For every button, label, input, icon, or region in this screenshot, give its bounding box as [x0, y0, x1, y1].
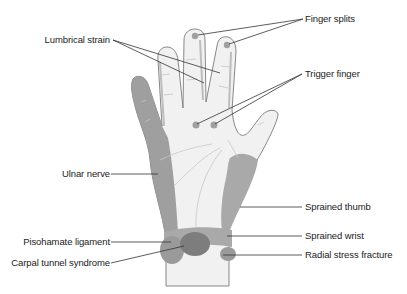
- hand-illustration: [132, 29, 278, 286]
- leader-finger-splits-2: [229, 19, 303, 44]
- label-lumbrical-strain: Lumbrical strain: [2, 34, 110, 45]
- trigger-finger-dot-2: [211, 122, 218, 129]
- label-radial-stress-fracture: Radial stress fracture: [305, 249, 393, 260]
- trigger-finger-dot-1: [193, 122, 200, 129]
- leader-finger-splits-1: [198, 19, 303, 35]
- finger-split-dot-middle: [192, 33, 198, 39]
- finger-split-dot-ring: [224, 42, 230, 48]
- label-sprained-thumb: Sprained thumb: [305, 201, 371, 212]
- label-trigger-finger: Trigger finger: [305, 68, 360, 79]
- pisohamate-ligament-region: [160, 236, 184, 264]
- radial-stress-fracture-region: [220, 247, 236, 261]
- label-ulnar-nerve: Ulnar nerve: [2, 168, 110, 179]
- label-carpal-tunnel-syndrome: Carpal tunnel syndrome: [2, 257, 110, 268]
- label-finger-splits: Finger splits: [305, 13, 355, 24]
- label-pisohamate-ligament: Pisohamate ligament: [2, 236, 110, 247]
- carpal-tunnel-region: [180, 232, 210, 256]
- label-sprained-wrist: Sprained wrist: [305, 230, 364, 241]
